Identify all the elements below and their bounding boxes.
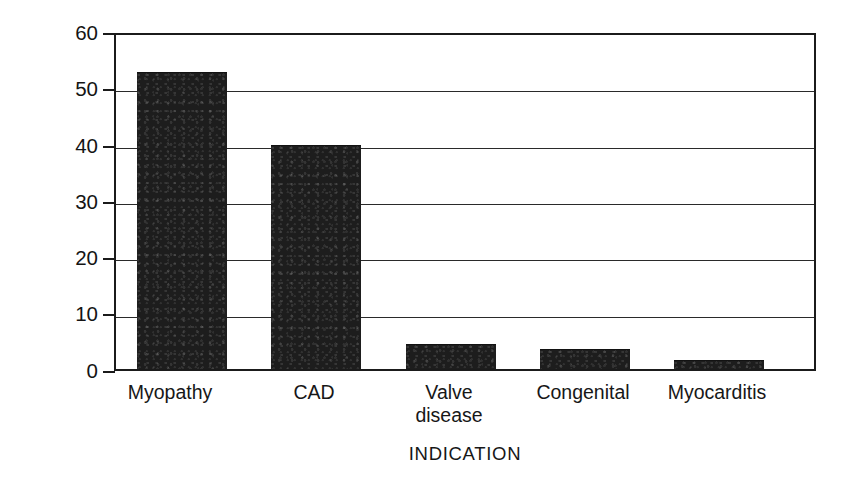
x-axis-title: INDICATION (114, 443, 816, 465)
bar-myopathy (137, 72, 227, 369)
y-tick-label-40: 40 (36, 136, 98, 156)
x-category-label-line: Myocarditis (617, 381, 817, 404)
y-tick-label-60: 60 (36, 23, 98, 43)
x-category-label-line: disease (349, 404, 549, 427)
y-tick-label-50: 50 (36, 79, 98, 99)
bar-cad (271, 145, 361, 369)
bar-congenital (540, 349, 630, 369)
y-tick-label-20: 20 (36, 248, 98, 268)
plot-area (114, 33, 816, 371)
bar-chart-figure: PERCENT OF TOTAL 0 10 20 30 40 50 60 Myo… (0, 0, 844, 490)
bar-myocarditis (674, 360, 764, 369)
bar-valve-disease (406, 344, 496, 369)
y-tick-label-0: 0 (36, 361, 98, 381)
y-tick-mark-0 (103, 371, 115, 373)
x-category-label-myocarditis: Myocarditis (617, 381, 817, 404)
y-tick-label-30: 30 (36, 192, 98, 212)
y-tick-label-10: 10 (36, 304, 98, 324)
